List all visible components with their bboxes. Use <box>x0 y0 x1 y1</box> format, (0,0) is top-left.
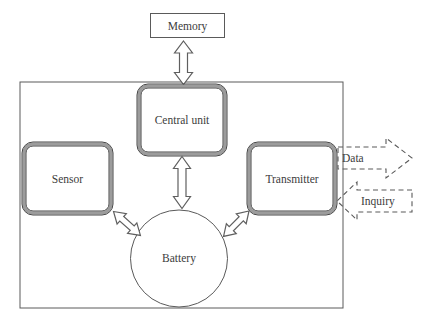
memory-central-arrow <box>175 41 193 85</box>
data-label: Data <box>342 152 364 164</box>
transmitter-battery-arrow <box>219 206 254 241</box>
central-unit-node: Central unit <box>137 84 227 156</box>
memory-node: Memory <box>151 14 225 38</box>
central-battery-arrow <box>174 157 191 209</box>
battery-label: Battery <box>162 252 196 265</box>
inquiry-label: Inquiry <box>361 195 395 208</box>
data-flow: Data <box>338 138 412 178</box>
memory-label: Memory <box>168 20 208 33</box>
inquiry-flow: Inquiry <box>337 182 412 220</box>
sensor-node: Sensor <box>22 142 113 215</box>
transmitter-node: Transmitter <box>247 142 337 215</box>
diagram-canvas: Memory Central unit Sensor Transmitter <box>0 0 423 326</box>
sensor-label: Sensor <box>52 173 83 185</box>
transmitter-label: Transmitter <box>265 173 318 185</box>
battery-node: Battery <box>131 210 228 307</box>
sensor-battery-arrow <box>109 206 145 240</box>
block-diagram: Memory Central unit Sensor Transmitter <box>0 0 423 326</box>
central-unit-label: Central unit <box>155 114 210 126</box>
